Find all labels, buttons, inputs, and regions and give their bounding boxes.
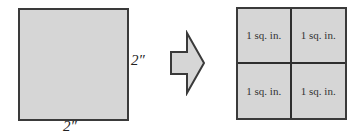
right-arrow-icon (168, 30, 208, 96)
two-inch-square (18, 8, 129, 121)
grid-cell: 1 sq. in. (238, 9, 292, 64)
grid-cell: 1 sq. in. (292, 64, 346, 119)
grid-cell: 1 sq. in. (238, 64, 292, 119)
side-length-label: 2″ (131, 52, 145, 69)
grid-cell: 1 sq. in. (292, 9, 346, 64)
square-inch-grid: 1 sq. in. 1 sq. in. 1 sq. in. 1 sq. in. (236, 7, 347, 120)
bottom-length-label: 2″ (63, 118, 77, 135)
